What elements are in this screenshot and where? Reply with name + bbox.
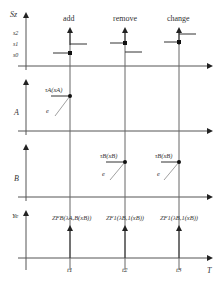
tick-s0: s0 [13, 52, 18, 58]
axis-label-a: A [13, 108, 19, 117]
z-label-t1: ZFB(λA,B(xB)) [52, 214, 91, 222]
timing-diagram: add remove change Sz s2 s1 s0 A B Ye τA(… [0, 0, 222, 284]
sz-point-add [68, 51, 72, 55]
time-label-t2: t2 [122, 266, 128, 274]
b-point-1 [123, 160, 127, 164]
b-edge-line-1 [110, 162, 125, 180]
tau-a-label: τA(xA) [45, 86, 62, 94]
a-point [68, 94, 72, 98]
tau-b-label-1: τB(xB) [100, 152, 117, 160]
b-edge-line-2 [164, 162, 179, 180]
sz-point-remove [123, 41, 127, 45]
a-edge-line [55, 96, 70, 116]
time-label-t3: t3 [176, 266, 182, 274]
axis-label-sz: Sz [10, 10, 18, 19]
event-label-add: add [63, 14, 75, 23]
edge-label-a: e [46, 107, 49, 114]
axis-label-ye: Ye [12, 212, 18, 220]
b-point-2 [177, 160, 181, 164]
tau-b-label-2: τB(xB) [155, 152, 172, 160]
tick-s2: s2 [13, 30, 18, 36]
event-label-remove: remove [113, 14, 137, 23]
axis-label-b: B [14, 174, 19, 183]
time-label-t1: t1 [67, 266, 72, 274]
edge-label-b2: e [157, 170, 160, 177]
z-label-t2: ZF1(λB,1(xB)) [106, 214, 144, 222]
event-label-change: change [167, 14, 190, 23]
edge-label-b1: e [102, 170, 105, 177]
time-axis-label: T [207, 266, 212, 275]
z-label-t3: ZF1(λB,1(xB)) [160, 214, 198, 222]
tick-s1: s1 [13, 41, 18, 47]
sz-point-change [177, 40, 181, 44]
